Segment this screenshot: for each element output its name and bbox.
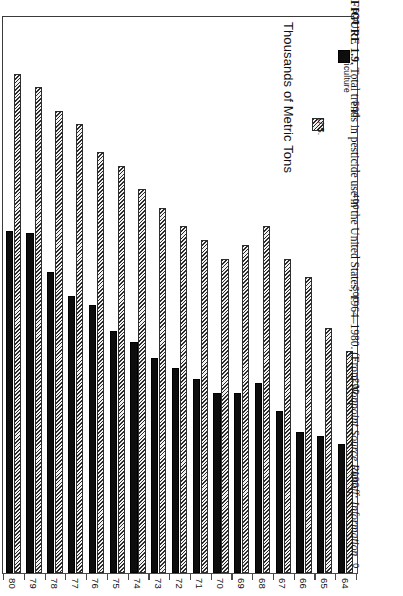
category-tick-label-73: 73	[153, 578, 164, 589]
category-tick-label-69: 69	[236, 578, 247, 589]
figure-container: 0100200300400500600 80797877767574737271…	[0, 0, 403, 596]
category-tick-label-79: 79	[28, 578, 39, 589]
category-tick-label-76: 76	[90, 578, 101, 589]
category-tick-label-78: 78	[49, 578, 60, 589]
category-tick-label-72: 72	[174, 578, 185, 589]
category-tick-label-68: 68	[257, 578, 268, 589]
category-tick-mark	[86, 574, 87, 580]
category-tick-label-70: 70	[215, 578, 226, 589]
category-tick-label-74: 74	[132, 578, 143, 589]
category-tick-mark	[211, 574, 212, 580]
category-tick-label-75: 75	[111, 578, 122, 589]
category-tick-mark	[169, 574, 170, 580]
category-tick-mark	[314, 574, 315, 580]
category-tick-mark	[24, 574, 25, 580]
category-tick-mark	[231, 574, 232, 580]
category-tick-mark	[190, 574, 191, 580]
category-tick-label-67: 67	[277, 578, 288, 589]
category-tick-mark	[3, 574, 4, 580]
category-tick-label-77: 77	[70, 578, 81, 589]
caption-body: Total trends in pesticide use in the Uni…	[349, 68, 361, 384]
category-tick-mark	[335, 574, 336, 580]
category-tick-mark	[65, 574, 66, 580]
category-tick-mark	[107, 574, 108, 580]
category-tick-mark	[45, 574, 46, 580]
category-tick-label-80: 80	[7, 578, 18, 589]
figure-caption: FIGURE 1.9. Total trends in pesticide us…	[340, 0, 370, 596]
category-tick-mark	[273, 574, 274, 580]
category-tick-mark	[294, 574, 295, 580]
figure-number: FIGURE 1.9.	[349, 0, 361, 65]
category-tick-mark	[148, 574, 149, 580]
caption-source: Nonpoint Source Runoff: Information	[349, 384, 361, 556]
legend-label-us: U.S.	[316, 118, 326, 135]
category-tick-label-65: 65	[319, 578, 330, 589]
legend-title: Thousands of Metric Tons	[281, 22, 296, 173]
category-axis-line	[2, 573, 358, 574]
category-tick-label-66: 66	[298, 578, 309, 589]
category-tick-label-71: 71	[194, 578, 205, 589]
category-tick-mark	[128, 574, 129, 580]
category-tick-mark	[252, 574, 253, 580]
